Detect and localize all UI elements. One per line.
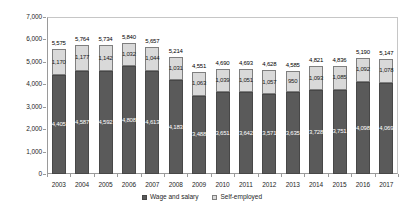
y-tick-label: 0: [2, 170, 42, 178]
legend-swatch-icon: [212, 195, 217, 200]
y-tick-mark: [43, 129, 46, 130]
x-tick-mark: [281, 174, 282, 177]
x-tick-mark: [258, 174, 259, 177]
y-tick-label: 2,000: [2, 125, 42, 133]
x-tick-mark: [70, 174, 71, 177]
y-tick-mark: [43, 152, 46, 153]
data-label-self-2017: 1,078: [372, 67, 400, 74]
legend-label: Self-employed: [220, 193, 262, 201]
data-label-wage-2017: 4,069: [372, 125, 400, 132]
x-tick-mark: [47, 174, 48, 177]
x-tick-label: 2017: [371, 181, 401, 189]
x-tick-mark: [328, 174, 329, 177]
data-label-total-2007: 5,657: [138, 38, 166, 45]
legend-label: Wage and salary: [150, 193, 199, 201]
data-label-self-2015: 1,085: [326, 74, 354, 81]
y-tick-label: 3,000: [2, 103, 42, 111]
x-tick-mark: [187, 174, 188, 177]
y-tick-mark: [43, 84, 46, 85]
x-tick-mark: [94, 174, 95, 177]
data-label-total-2017: 5,147: [372, 50, 400, 57]
y-tick-label: 1,000: [2, 148, 42, 156]
y-tick-label: 5,000: [2, 58, 42, 66]
x-tick-mark: [234, 174, 235, 177]
legend-swatch-icon: [142, 195, 147, 200]
x-tick-mark: [211, 174, 212, 177]
data-label-total-2015: 4,836: [326, 57, 354, 64]
y-tick-label: 7,000: [2, 13, 42, 21]
x-tick-mark: [117, 174, 118, 177]
x-tick-mark: [164, 174, 165, 177]
stacked-bar-chart: 01,0002,0003,0004,0005,0006,0007,000 200…: [0, 0, 404, 215]
y-tick-mark: [43, 17, 46, 18]
data-label-total-2008: 5,214: [162, 48, 190, 55]
legend-item-wage-and-salary: Wage and salary: [142, 193, 199, 201]
x-tick-mark: [351, 174, 352, 177]
y-tick-label: 4,000: [2, 80, 42, 88]
legend: Wage and salarySelf-employed: [0, 193, 404, 201]
x-tick-mark: [304, 174, 305, 177]
y-tick-label: 6,000: [2, 35, 42, 43]
x-tick-mark: [141, 174, 142, 177]
y-tick-mark: [43, 174, 46, 175]
data-label-wage-2008: 4,183: [162, 124, 190, 131]
legend-item-self-employed: Self-employed: [212, 193, 262, 201]
x-tick-mark: [398, 174, 399, 177]
x-tick-mark: [375, 174, 376, 177]
data-label-self-2007: 1,044: [138, 55, 166, 62]
y-tick-mark: [43, 107, 46, 108]
